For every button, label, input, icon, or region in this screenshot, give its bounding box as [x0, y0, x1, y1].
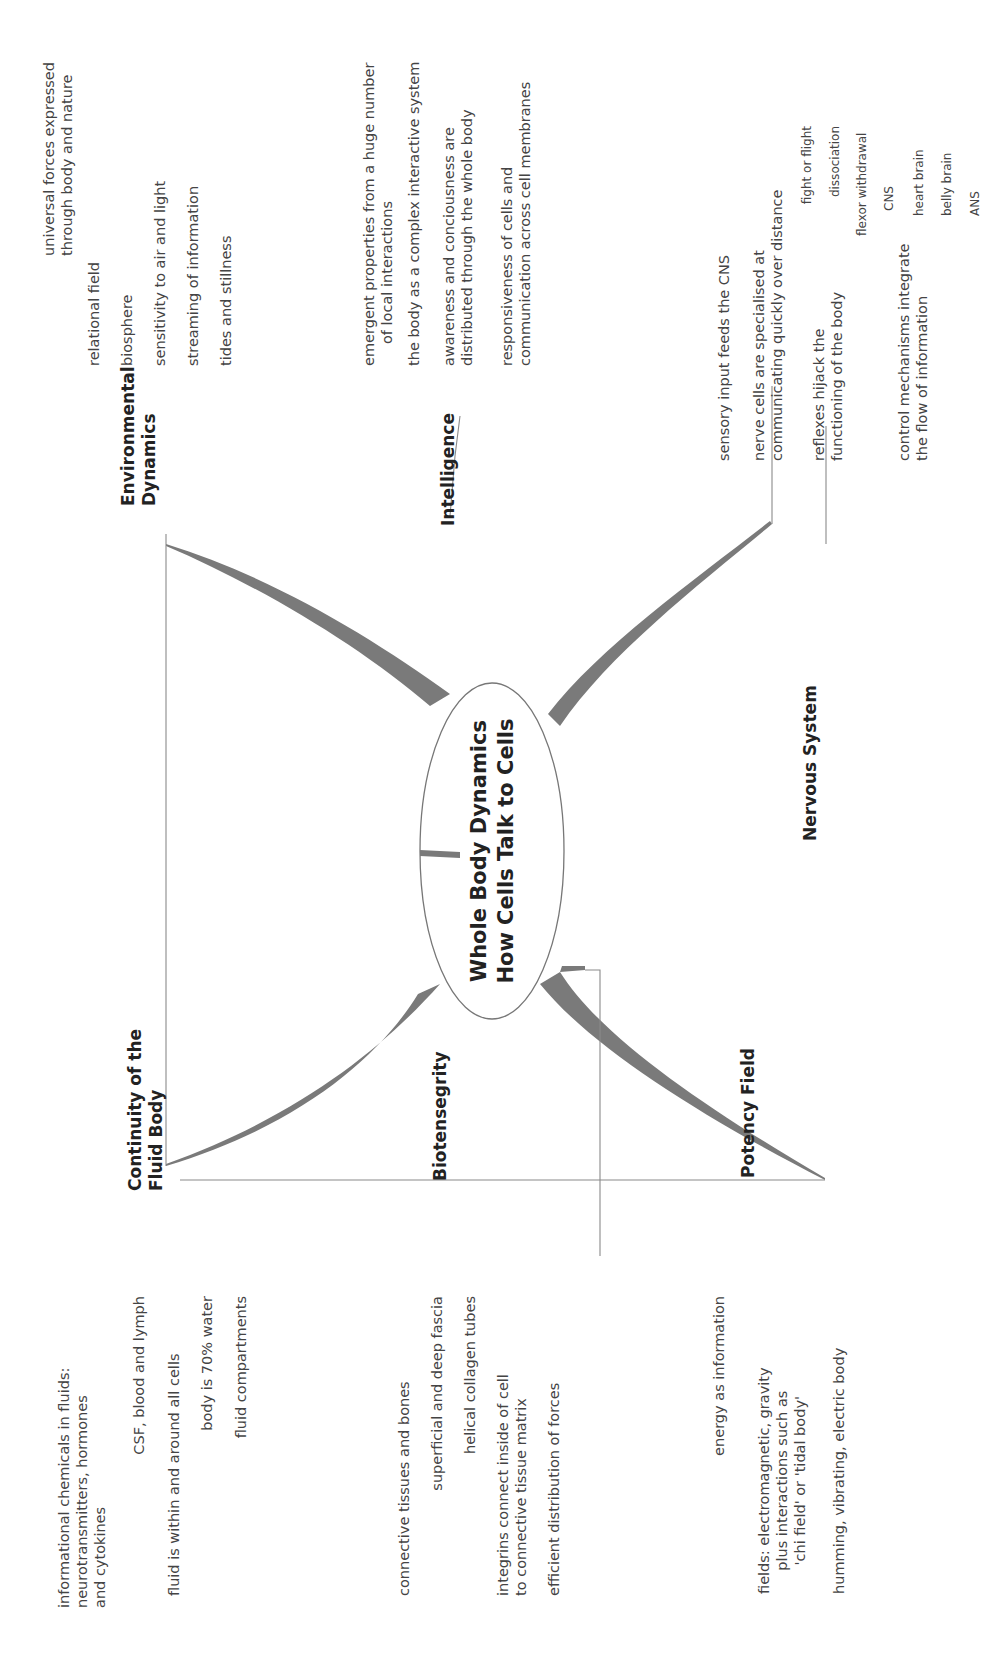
- branch-potency-field[interactable]: Potency Field: [738, 1048, 759, 1178]
- leaf-flexor-withdrawal[interactable]: flexor withdrawal: [855, 133, 870, 236]
- leaf-relational-field[interactable]: relational field: [85, 262, 103, 366]
- leaf-superficial-deep-fascia[interactable]: superficial and deep fascia: [428, 1296, 446, 1546]
- central-topic[interactable]: Whole Body Dynamics How Cells Talk to Ce…: [420, 686, 565, 1016]
- branch-environmental-dynamics[interactable]: Environmental Dynamics: [118, 366, 160, 506]
- leaf-awareness-distributed[interactable]: awareness and conciousness are distribut…: [440, 109, 476, 366]
- leaf-emergent-properties[interactable]: emergent properties from a huge number o…: [360, 63, 396, 366]
- leaf-complex-interactive-system[interactable]: the body as a complex interactive system: [405, 62, 423, 366]
- leaf-tides-stillness[interactable]: tides and stillness: [217, 236, 235, 366]
- central-title-line2: How Cells Talk to Cells: [493, 718, 520, 983]
- leaf-energy-as-information[interactable]: energy as information: [710, 1296, 728, 1546]
- leaf-sensitivity-air-light[interactable]: sensitivity to air and light: [151, 181, 169, 366]
- mind-map-canvas: Whole Body Dynamics How Cells Talk to Ce…: [0, 0, 1004, 1656]
- central-title-line1: Whole Body Dynamics: [466, 720, 493, 982]
- leaf-sensory-input[interactable]: sensory input feeds the CNS: [715, 255, 733, 461]
- leaf-integrins-connect[interactable]: integrins connect inside of cell to conn…: [494, 1374, 530, 1596]
- leaf-fluid-within-around-cells[interactable]: fluid is within and around all cells: [165, 1354, 183, 1597]
- branch-intelligence[interactable]: Intelligence: [438, 413, 459, 526]
- branch-continuity-fluid-body[interactable]: Continuity of the Fluid Body: [125, 1029, 167, 1191]
- leaf-reflexes-hijack[interactable]: reflexes hijack the functioning of the b…: [810, 292, 846, 461]
- leaf-body-70-water[interactable]: body is 70% water: [198, 1296, 216, 1496]
- leaf-humming-vibrating[interactable]: humming, vibrating, electric body: [830, 1348, 848, 1594]
- leaf-helical-collagen[interactable]: helical collagen tubes: [461, 1296, 479, 1546]
- leaf-control-mechanisms[interactable]: control mechanisms integrate the flow of…: [895, 243, 931, 461]
- leaf-fluid-compartments[interactable]: fluid compartments: [232, 1296, 250, 1496]
- leaf-efficient-distribution[interactable]: efficient distribution of forces: [545, 1383, 563, 1596]
- leaf-belly-brain[interactable]: belly brain: [940, 153, 955, 216]
- leaf-dissociation[interactable]: dissociation: [828, 126, 843, 236]
- leaf-cns[interactable]: CNS: [882, 186, 897, 246]
- leaf-ans[interactable]: ANS: [968, 191, 983, 216]
- leaf-heart-brain[interactable]: heart brain: [912, 149, 927, 216]
- leaf-streaming-information[interactable]: streaming of information: [184, 186, 202, 366]
- leaf-responsiveness-cells[interactable]: responsiveness of cells and communicatio…: [498, 82, 534, 366]
- leaf-csf-blood-lymph[interactable]: CSF, blood and lymph: [130, 1296, 148, 1496]
- leaf-nerve-cells-specialised[interactable]: nerve cells are specialised at communica…: [750, 190, 786, 461]
- leaf-biosphere[interactable]: biosphere: [118, 294, 136, 366]
- leaf-informational-chemicals[interactable]: informational chemicals in fluids: neuro…: [55, 1368, 109, 1608]
- branch-biotensegrity[interactable]: Biotensegrity: [430, 1052, 451, 1181]
- leaf-fields-electromagnetic[interactable]: fields: electromagnetic, gravity plus in…: [755, 1367, 809, 1594]
- leaf-universal-forces[interactable]: universal forces expressed through body …: [40, 62, 76, 256]
- branch-nervous-system[interactable]: Nervous System: [800, 685, 821, 841]
- leaf-connective-tissues-bones[interactable]: connective tissues and bones: [395, 1381, 413, 1596]
- leaf-fight-or-flight[interactable]: fight or flight: [800, 126, 815, 236]
